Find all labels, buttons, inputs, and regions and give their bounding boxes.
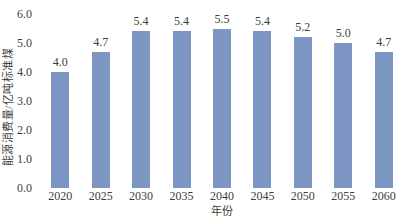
- bar-slot: 5.4: [161, 14, 201, 188]
- bar-value-label: 4.0: [40, 56, 80, 68]
- y-tick-label: 0.0: [0, 182, 32, 194]
- bars-row: 4.04.75.45.45.55.45.25.04.7: [40, 14, 404, 188]
- bar-value-label: 5.4: [161, 15, 201, 27]
- x-tick-label: 2020: [40, 190, 80, 202]
- bar-2055: [334, 43, 352, 188]
- bar-2035: [173, 31, 191, 188]
- bar-slot: 5.0: [323, 14, 363, 188]
- bar-value-label: 5.4: [242, 15, 282, 27]
- bar-value-label: 5.2: [283, 21, 323, 33]
- bar-2025: [92, 52, 110, 188]
- x-tick-label: 2025: [80, 190, 120, 202]
- bar-2020: [51, 72, 69, 188]
- bar-value-label: 5.5: [202, 13, 242, 25]
- y-tick-label: 1.0: [0, 153, 32, 165]
- y-tick-label: 6.0: [0, 8, 32, 20]
- bar-slot: 4.0: [40, 14, 80, 188]
- x-tick-label: 2055: [323, 190, 363, 202]
- bar-value-label: 4.7: [364, 36, 404, 48]
- y-tick-label: 2.0: [0, 124, 32, 136]
- x-tick-label: 2030: [121, 190, 161, 202]
- x-axis-tick-labels: 202020252030203520402045205020552060: [40, 190, 404, 202]
- bar-slot: 5.5: [202, 14, 242, 188]
- bar-slot: 4.7: [80, 14, 120, 188]
- plot-area: 4.04.75.45.45.55.45.25.04.7: [40, 14, 404, 188]
- bar-2050: [294, 37, 312, 188]
- bar-slot: 5.4: [242, 14, 282, 188]
- y-tick-label: 5.0: [0, 37, 32, 49]
- bar-value-label: 5.4: [121, 15, 161, 27]
- energy-consumption-bar-chart: 能源消费量/亿吨标准煤 0.01.02.03.04.05.06.0 4.04.7…: [0, 0, 407, 223]
- y-tick-label: 4.0: [0, 66, 32, 78]
- bar-slot: 5.4: [121, 14, 161, 188]
- bar-2045: [253, 31, 271, 188]
- y-tick-label: 3.0: [0, 95, 32, 107]
- bar-value-label: 4.7: [80, 36, 120, 48]
- x-tick-label: 2060: [364, 190, 404, 202]
- x-tick-label: 2050: [283, 190, 323, 202]
- x-axis-title: 年份: [40, 205, 404, 217]
- bar-slot: 4.7: [364, 14, 404, 188]
- bar-2030: [132, 31, 150, 188]
- bar-2060: [375, 52, 393, 188]
- x-tick-label: 2040: [202, 190, 242, 202]
- bar-value-label: 5.0: [323, 27, 363, 39]
- x-tick-label: 2035: [161, 190, 201, 202]
- bar-slot: 5.2: [283, 14, 323, 188]
- y-axis-tick-labels: 0.01.02.03.04.05.06.0: [0, 0, 33, 223]
- bar-2040: [213, 29, 231, 189]
- x-tick-label: 2045: [242, 190, 282, 202]
